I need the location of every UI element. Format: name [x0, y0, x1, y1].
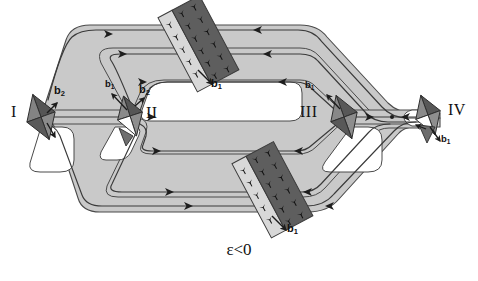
ribbon-band — [30, 25, 440, 212]
burgers-label-b1-wall-bottom: b1 — [287, 223, 298, 234]
junction-dot-right — [390, 115, 394, 119]
node-label-I: I — [11, 104, 17, 120]
burgers-sub: 1 — [218, 82, 222, 91]
burgers-sub: 2 — [146, 88, 150, 97]
figure-caption: ε<0 — [0, 240, 478, 260]
burgers-label-b2-node-I: b2 — [54, 85, 65, 96]
burgers-label-b1-wall-top: b1 — [211, 78, 222, 89]
node-label-III: III — [300, 104, 317, 120]
burgers-sub: 1 — [447, 138, 451, 145]
burgers-base: b — [287, 222, 294, 234]
dislocation-spiral-diagram — [0, 0, 478, 281]
burgers-base: b — [105, 78, 111, 89]
burgers-sub: 1 — [311, 84, 315, 91]
burgers-label-b1-node-II: b1 — [105, 79, 114, 89]
node-label-IV: IV — [448, 102, 466, 118]
burgers-sub: 1 — [294, 227, 298, 236]
figure-root: I II III IV b2 b1 b2 b1 b1 b1 b1 ε<0 — [0, 0, 478, 281]
burgers-base: b — [211, 77, 218, 89]
burgers-base: b — [441, 133, 447, 144]
left-lobe-hole — [30, 127, 74, 172]
burgers-base: b — [305, 79, 311, 90]
burgers-base: b — [139, 83, 146, 95]
burgers-sub: 1 — [111, 83, 115, 90]
burgers-label-b2-node-II: b2 — [139, 84, 150, 95]
burgers-label-b1-node-IV: b1 — [441, 134, 450, 144]
burgers-sub: 2 — [61, 89, 65, 98]
node-label-II: II — [146, 105, 158, 121]
burgers-label-b1-node-III: b1 — [305, 80, 314, 90]
burgers-base: b — [54, 84, 61, 96]
